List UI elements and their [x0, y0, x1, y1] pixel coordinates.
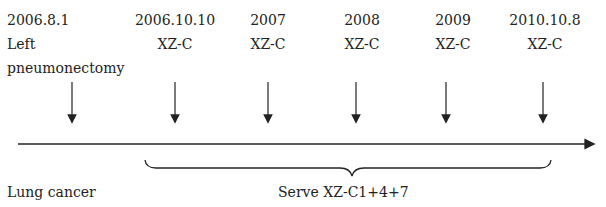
down-arrow-icons — [72, 82, 543, 119]
lung-cancer-label: Lung cancer — [7, 183, 96, 201]
timeline-graphics — [0, 0, 606, 207]
brace-label: Serve XZ-C1+4+7 — [278, 183, 409, 201]
curly-brace — [145, 160, 551, 176]
